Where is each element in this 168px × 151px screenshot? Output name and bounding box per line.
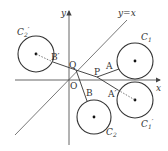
dashed-a-prime-to-c1-prime-center bbox=[118, 90, 135, 100]
line-y-equals-x-label: y=x bbox=[117, 8, 136, 18]
point-b-prime-label: B′ bbox=[51, 52, 60, 62]
circle-c1: C1 bbox=[117, 32, 153, 79]
x-axis-label: x bbox=[156, 83, 161, 93]
point-b-label: B bbox=[86, 88, 93, 98]
circle-c1-label: C1 bbox=[141, 32, 152, 43]
point-p-label: P bbox=[94, 67, 100, 77]
geometry-diagram: x y O y=x C1 C1′ C2 C2′ Q P A A′ B B′ bbox=[0, 0, 168, 151]
y-axis-label: y bbox=[60, 8, 67, 18]
point-q-label: Q bbox=[69, 60, 76, 70]
circle-c2-prime-label: C2′ bbox=[17, 26, 30, 38]
circle-c1-prime: C1′ bbox=[117, 82, 154, 130]
center-dot bbox=[134, 60, 137, 63]
origin-label: O bbox=[70, 81, 77, 91]
line-y-equals-x bbox=[15, 20, 127, 135]
circle-c1-prime-label: C1′ bbox=[141, 118, 154, 130]
circle-c2-prime: C2′ bbox=[17, 26, 54, 72]
center-dot bbox=[93, 116, 96, 119]
circle-c2-label: C2 bbox=[106, 127, 117, 138]
circle-c2: C2 bbox=[77, 100, 117, 138]
point-a-label: A bbox=[105, 61, 113, 71]
point-a-prime-label: A′ bbox=[107, 89, 117, 99]
